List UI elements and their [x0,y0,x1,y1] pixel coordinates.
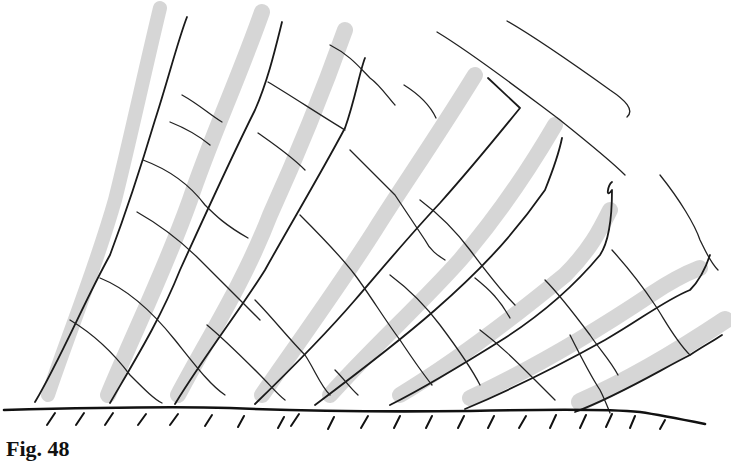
ground-hatch-mark [291,414,299,426]
shaded-band [48,8,160,395]
shaded-band [400,210,610,395]
ground-hatch-mark [426,416,432,428]
ground-hatch-mark [238,416,244,427]
shaded-bands [48,8,725,402]
ground-hatch-mark [580,415,586,428]
shaded-band [108,12,262,395]
ground-hatch-mark [550,415,556,428]
crack-line-secondary [475,278,510,318]
shaded-band [470,268,700,398]
shaded-band [178,30,345,395]
crack-line-secondary [182,95,222,122]
ground-hatch-mark [606,414,612,427]
ground-hatch-mark [138,414,146,425]
ground-hatch-mark [488,416,494,428]
figure-caption: Fig. 48 [6,438,70,460]
ground-hatch-mark [170,414,178,425]
ground-hatch-mark [361,416,368,428]
ground-hatch-mark [394,416,400,428]
ground-hatch-mark [519,416,526,428]
ground-hatch-mark [660,420,665,429]
ground-hatch-mark [105,413,113,425]
ground-hatch-mark [76,413,84,425]
ground-hatch-mark [630,416,635,428]
crack-line-secondary [507,21,630,117]
crack-line-secondary [404,85,436,118]
ground-line [4,407,705,424]
ground-hatch-mark [278,417,284,428]
ground-hatch-mark [328,417,334,429]
ground-surface [4,407,705,429]
ground-hatch-mark [47,413,55,425]
ground-hatch-mark [458,416,464,428]
ground-hatch-mark [205,415,212,426]
